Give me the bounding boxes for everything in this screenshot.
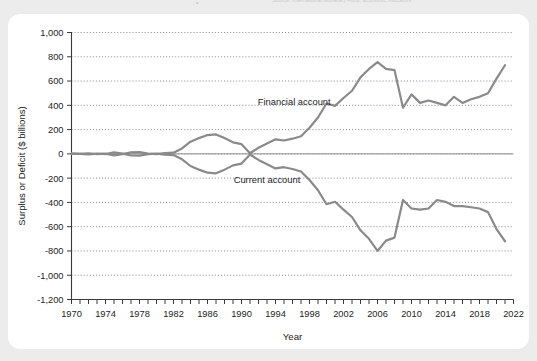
data-series-group	[72, 62, 506, 251]
y-tick-label: 600	[48, 76, 64, 86]
financial-account-label: Financial account	[258, 96, 331, 107]
axis-spines-group	[71, 32, 514, 300]
x-tick-label: 1978	[129, 309, 150, 319]
x-tick-label: 2018	[469, 309, 490, 319]
y-tick-label: -400	[45, 198, 64, 208]
y-axis-title: Surplus or Deficit ($ billions)	[16, 106, 27, 225]
x-tick-label: 1990	[231, 309, 252, 319]
x-tick-label: 1974	[95, 309, 116, 319]
y-tick-label: -1,000	[37, 271, 63, 281]
x-tick-label: 2006	[367, 309, 388, 319]
y-tick-label: -1,200	[37, 295, 63, 305]
y-tick-label: 0	[58, 149, 63, 159]
x-tick-label: 1998	[299, 309, 320, 319]
x-tick-label: 1982	[163, 309, 184, 319]
minor-x-ticks-group	[80, 300, 505, 305]
y-tick-label: -600	[45, 222, 64, 232]
y-tick-label: -200	[45, 174, 64, 184]
current-account-label: Current account	[234, 174, 301, 185]
y-tick-label: 1,000	[40, 28, 63, 38]
chart-screenshot: • Source: International Monetary Fund, E…	[0, 0, 537, 361]
chart-svg: 1,0008006004002000-200-400-600-800-1,000…	[0, 0, 537, 361]
x-tick-label: 1970	[61, 309, 82, 319]
y-tick-labels-group: 1,0008006004002000-200-400-600-800-1,000…	[37, 28, 63, 305]
financial-account-line	[72, 62, 506, 155]
gridlines-group	[72, 33, 514, 300]
y-tick-label: -800	[45, 246, 64, 256]
x-axis-title: Year	[283, 331, 303, 342]
y-tick-label: 200	[48, 125, 64, 135]
x-tick-label: 2022	[503, 309, 524, 319]
chart-plot-area: 1,0008006004002000-200-400-600-800-1,000…	[0, 0, 537, 361]
x-tick-label: 1994	[265, 309, 286, 319]
x-tick-label: 1986	[197, 309, 218, 319]
x-tick-label: 2014	[435, 309, 456, 319]
x-tick-labels-group: 1970197419781982198619901994199820022006…	[61, 309, 524, 319]
current-account-line	[72, 152, 506, 251]
x-tick-label: 2002	[333, 309, 354, 319]
y-tick-label: 400	[48, 101, 64, 111]
x-tick-label: 2010	[401, 309, 422, 319]
y-tick-label: 800	[48, 52, 64, 62]
